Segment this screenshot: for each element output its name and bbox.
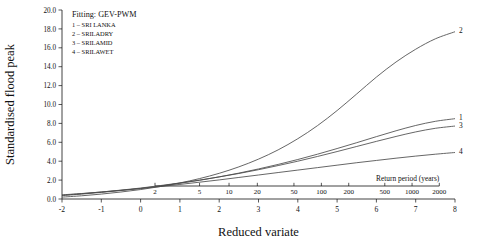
y-tick-label: 10.0: [43, 101, 56, 109]
x-tick-label: -1: [98, 205, 105, 214]
return-period-tick-label: 1000: [405, 188, 420, 196]
return-period-tick-label: 2000: [432, 188, 447, 196]
return-period-tick-label: 10: [226, 188, 234, 196]
y-tick-label: 18.0: [43, 26, 56, 34]
y-tick-label: 0.0: [47, 196, 56, 204]
x-tick-label: 0: [139, 205, 143, 214]
return-period-tick-label: 50: [290, 188, 298, 196]
chart-svg: 0.02.04.06.08.010.012.014.016.018.020.0-…: [0, 0, 487, 246]
y-tick-label: 6.0: [47, 139, 56, 147]
x-tick-label: 7: [414, 205, 418, 214]
series-curve-2: [62, 32, 455, 197]
series-curve-3: [62, 126, 455, 195]
return-period-tick-label: 100: [316, 188, 327, 196]
y-tick-label: 12.0: [43, 82, 56, 90]
x-tick-label: 5: [335, 205, 339, 214]
x-axis-title: Reduced variate: [218, 225, 299, 239]
return-period-tick-label: 2: [153, 188, 157, 196]
y-tick-label: 16.0: [43, 44, 56, 52]
legend-heading: Fitting: GEV-PWM: [72, 10, 137, 19]
y-tick-label: 14.0: [43, 63, 56, 71]
series-end-label-2: 2: [459, 26, 463, 35]
return-period-axis-title: Return period (years): [376, 174, 440, 183]
return-period-tick-label: 500: [380, 188, 391, 196]
x-tick-label: 1: [178, 205, 182, 214]
return-period-tick-label: 5: [198, 188, 202, 196]
y-tick-label: 8.0: [47, 120, 56, 128]
y-tick-label: 20.0: [43, 7, 56, 15]
x-tick-label: 3: [257, 205, 261, 214]
legend-entry-4: 4 – SRILAWET: [72, 48, 113, 55]
x-tick-label: 8: [453, 205, 457, 214]
y-tick-label: 2.0: [47, 177, 56, 185]
series-end-label-4: 4: [459, 147, 463, 156]
x-tick-label: 6: [375, 205, 379, 214]
series-end-label-3: 3: [459, 121, 463, 130]
return-period-tick-label: 20: [254, 188, 262, 196]
legend-entry-2: 2 – SRILADRY: [72, 30, 114, 37]
x-tick-label: 2: [217, 205, 221, 214]
return-period-tick-label: 200: [343, 188, 354, 196]
series-curve-1: [62, 119, 455, 196]
y-tick-label: 4.0: [47, 158, 56, 166]
x-tick-label: 4: [296, 205, 300, 214]
legend-entry-3: 3 – SRILAMID: [72, 39, 113, 46]
figure-root: 0.02.04.06.08.010.012.014.016.018.020.0-…: [0, 0, 487, 246]
legend-entry-1: 1 – SRI LANKA: [72, 21, 116, 28]
x-tick-label: -2: [59, 205, 66, 214]
y-axis-title: Standardised flood peak: [3, 43, 17, 165]
